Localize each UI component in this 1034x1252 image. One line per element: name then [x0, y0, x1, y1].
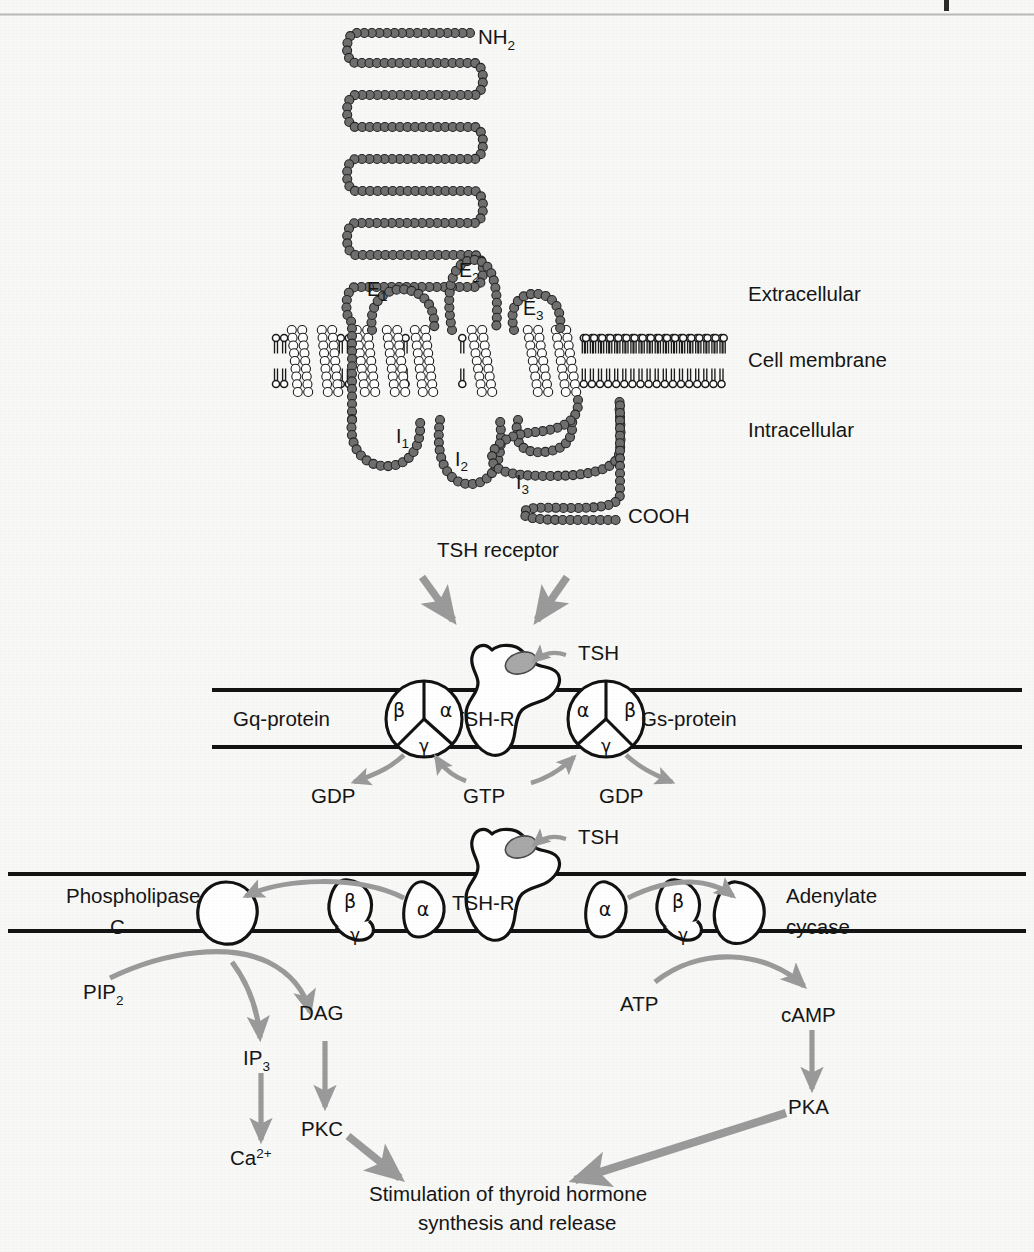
gs-gamma-label: γ — [601, 736, 611, 756]
gs-beta-label: β — [624, 699, 636, 721]
tsh-label-middle: TSH — [578, 641, 619, 664]
outcome-line2: synthesis and release — [418, 1211, 616, 1234]
camp-label: cAMP — [781, 1003, 836, 1026]
loop-label-i1: I1 — [396, 425, 409, 451]
tsh-signaling-figure: NH2 COOH E1 E2 E3 I1 I2 I3 Extracellular… — [0, 0, 1034, 1252]
gq-beta-label: β — [393, 699, 405, 721]
side-label-extracellular: Extracellular — [748, 282, 861, 305]
gq-heterotrimer: β α γ — [386, 681, 462, 757]
cascade-arrows-right — [575, 957, 812, 1180]
peptide-chain — [342, 29, 625, 525]
gs-gamma-glyph: γ — [678, 925, 688, 945]
adenylate-cyclase-label-line1: Adenylate — [786, 884, 877, 907]
phospholipase-c-label-line1: Phospholipase — [66, 884, 201, 907]
pkc-label: PKC — [301, 1117, 343, 1140]
figure-page: NH2 COOH E1 E2 E3 I1 I2 I3 Extracellular… — [0, 0, 1034, 1252]
gtp-label: GTP — [463, 784, 505, 807]
gs-alpha-glyph: α — [599, 898, 612, 920]
phospholipase-c-enzyme — [198, 882, 257, 944]
gq-beta-gamma-subunit: β γ — [329, 880, 374, 945]
gq-alpha-glyph: α — [417, 898, 430, 920]
receptor-caption: TSH receptor — [437, 538, 559, 561]
loop-label-e3: E3 — [523, 297, 544, 323]
tsh-ligand-arrow-middle — [534, 653, 566, 661]
gs-alpha-subunit: α — [586, 882, 626, 937]
gs-beta-gamma-subunit: β γ — [657, 880, 702, 945]
gq-alpha-label: α — [440, 699, 453, 721]
outcome-line1: Stimulation of thyroid hormone — [369, 1182, 647, 1205]
ip3-label: IP3 — [243, 1046, 270, 1074]
tsh-ligand-arrow-lower — [534, 837, 566, 845]
c-terminus-label: COOH — [628, 504, 690, 527]
gs-alpha-label: α — [577, 699, 590, 721]
dag-label: DAG — [299, 1001, 343, 1024]
pka-label: PKA — [788, 1095, 829, 1118]
receptor-to-gprotein-arrows — [422, 577, 567, 620]
n-terminus-label: NH2 — [478, 25, 515, 53]
gq-protein-label: Gq-protein — [233, 707, 330, 730]
tsh-label-lower: TSH — [578, 825, 619, 848]
gs-protein-label: Gs-protein — [641, 707, 737, 730]
gdp-right-label: GDP — [599, 784, 643, 807]
gdp-left-label: GDP — [311, 784, 355, 807]
side-label-cell-membrane: Cell membrane — [748, 348, 887, 371]
calcium-label: Ca2+ — [230, 1146, 272, 1169]
atp-label: ATP — [620, 992, 658, 1015]
page-rule — [0, 0, 1034, 15]
side-label-intracellular: Intracellular — [748, 418, 854, 441]
phospholipase-c-label-line2: C — [110, 915, 125, 938]
gq-beta-glyph: β — [344, 890, 356, 912]
pip2-label: PIP2 — [83, 980, 124, 1008]
gq-gamma-glyph: γ — [350, 925, 360, 945]
adenylate-cyclase-label-line2: cycase — [786, 915, 850, 938]
gs-beta-glyph: β — [672, 890, 684, 912]
loop-label-i2: I2 — [455, 448, 468, 474]
receptor-label-lower: TSH-R — [452, 891, 515, 914]
gq-gamma-label: γ — [419, 736, 429, 756]
transmembrane-helices — [287, 326, 580, 397]
gs-heterotrimer: α β γ — [568, 681, 644, 757]
nucleotide-exchange-arrows — [354, 755, 672, 783]
gq-alpha-subunit: α — [404, 882, 444, 937]
